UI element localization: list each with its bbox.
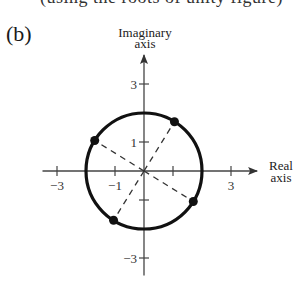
y-tick-label: 1: [131, 135, 138, 150]
x-tick-label: 3: [228, 178, 235, 193]
dashed-ray: [144, 122, 174, 171]
imaginary-axis-title-line2: axis: [135, 36, 156, 51]
y-tick-label: −3: [123, 251, 137, 266]
root-point: [109, 216, 118, 225]
x-tick-label: −1: [108, 178, 122, 193]
x-tick-label: −3: [50, 178, 64, 193]
dashed-ray: [144, 171, 193, 201]
y-tick-label: 3: [131, 77, 138, 92]
complex-plane-diagram: −3−1331−3ImaginaryaxisRealaxis: [0, 0, 307, 295]
root-point: [90, 136, 99, 145]
real-axis-title-line2: axis: [271, 170, 292, 185]
root-point: [170, 117, 179, 126]
root-point: [189, 197, 198, 206]
